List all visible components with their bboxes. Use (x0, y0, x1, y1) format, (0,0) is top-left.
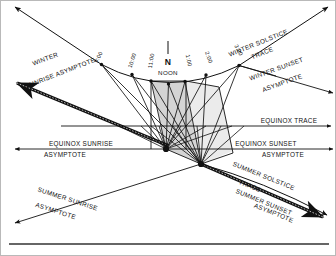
north-label: N (165, 57, 172, 67)
equinox-sunrise-asymptote-label: EQUINOX SUNRISE (49, 140, 113, 148)
hour-label-11: 11:00 (147, 53, 156, 69)
diagram-canvas: 9:00 10:00 11:00 1:00 2:00 3:00 N NOON W… (1, 1, 336, 256)
summer-solstice-trace-label: SUMMER SOLSTICE (232, 160, 296, 191)
hour-label-1: 1:00 (185, 54, 193, 67)
summer-sunrise-asymptote-label2: ASYMPTOTE (35, 201, 77, 221)
hour-label-10: 10:00 (127, 52, 137, 69)
sundial-diagram: 9:00 10:00 11:00 1:00 2:00 3:00 N NOON W… (0, 0, 336, 256)
equinox-trace-label: EQUINOX TRACE (261, 117, 318, 125)
equinox-sunset-asymptote-label: EQUINOX SUNSET (235, 140, 296, 148)
winter-sunrise-asymptote-label: WINTER (31, 51, 59, 67)
noon-label: NOON (158, 69, 178, 76)
equinox-sunrise-asymptote-label2: ASYMPTOTE (44, 151, 86, 158)
equinox-sunset-asymptote-label2: ASYMPTOTE (262, 151, 304, 158)
hour-label-2: 2:00 (204, 51, 214, 64)
